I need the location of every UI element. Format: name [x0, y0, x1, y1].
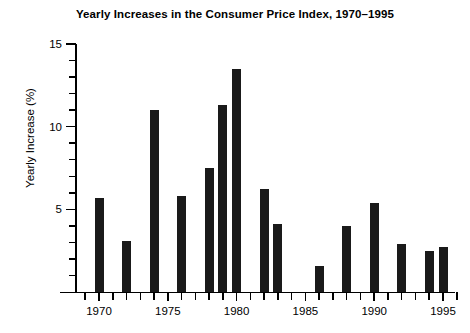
- x-axis-minor-tick: [415, 292, 417, 300]
- x-axis-tick-label: 1980: [224, 305, 250, 317]
- bar: [425, 251, 434, 292]
- bar: [342, 226, 351, 292]
- bar: [218, 105, 227, 292]
- x-axis-minor-tick: [318, 292, 320, 300]
- x-axis-minor-tick: [250, 292, 252, 300]
- bar: [370, 203, 379, 292]
- x-axis-tick-label: 1995: [430, 305, 456, 317]
- y-axis-tick-label: 5: [36, 203, 62, 215]
- x-axis-tick-label: 1975: [155, 305, 181, 317]
- x-axis-minor-tick: [112, 292, 114, 300]
- x-axis-minor-tick: [387, 292, 389, 300]
- x-axis-minor-tick: [84, 292, 86, 300]
- chart-title: Yearly Increases in the Consumer Price I…: [0, 8, 470, 20]
- x-axis-major-tick: [305, 292, 307, 301]
- x-axis-minor-tick: [428, 292, 430, 300]
- bar: [122, 241, 131, 292]
- x-axis-minor-tick: [401, 292, 403, 300]
- x-axis-minor-tick: [126, 292, 128, 300]
- bar: [95, 198, 104, 292]
- x-axis-minor-tick: [277, 292, 279, 300]
- bar: [397, 244, 406, 292]
- y-axis-tick-labels: 51015: [34, 0, 62, 333]
- x-axis-minor-tick: [360, 292, 362, 300]
- x-axis-minor-tick: [291, 292, 293, 300]
- bar: [439, 247, 448, 292]
- x-axis-major-tick: [98, 292, 100, 301]
- x-axis-minor-tick: [140, 292, 142, 300]
- x-axis-tick-label: 1990: [361, 305, 387, 317]
- bar: [205, 168, 214, 292]
- bar: [315, 266, 324, 292]
- bar: [177, 196, 186, 292]
- x-axis-minor-tick: [332, 292, 334, 300]
- bar: [232, 69, 241, 292]
- x-axis-minor-tick: [195, 292, 197, 300]
- x-axis-minor-tick: [153, 292, 155, 300]
- x-axis-major-tick: [442, 292, 444, 301]
- bar: [260, 189, 269, 292]
- x-axis-major-tick: [236, 292, 238, 301]
- x-axis-minor-tick: [208, 292, 210, 300]
- x-axis-major-tick: [167, 292, 169, 301]
- x-axis-major-tick: [373, 292, 375, 301]
- x-axis-minor-tick: [456, 292, 458, 300]
- x-axis-minor-tick: [263, 292, 265, 300]
- bar: [273, 224, 282, 292]
- x-axis-tick-label: 1985: [293, 305, 319, 317]
- cpi-bar-chart-figure: Yearly Increases in the Consumer Price I…: [0, 0, 470, 333]
- plot-area: [75, 40, 455, 292]
- y-axis-tick-label: 15: [36, 38, 62, 50]
- x-axis-tick-label: 1970: [86, 305, 112, 317]
- y-axis-tick-label: 10: [36, 121, 62, 133]
- x-axis-minor-tick: [222, 292, 224, 300]
- x-axis-minor-tick: [346, 292, 348, 300]
- x-axis-minor-tick: [181, 292, 183, 300]
- bar: [150, 110, 159, 292]
